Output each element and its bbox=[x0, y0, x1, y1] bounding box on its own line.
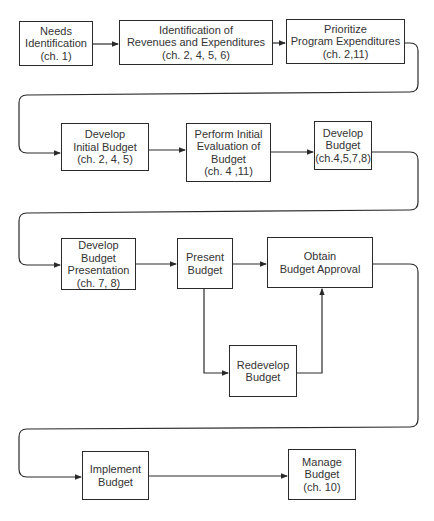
node-label-line: Budget bbox=[305, 468, 340, 481]
node-label-line: Evaluation of bbox=[197, 140, 261, 153]
node-label-line: Budget bbox=[326, 139, 361, 152]
node-label-line: Redevelop bbox=[237, 359, 290, 372]
node-label-line: (ch. 4 ,11) bbox=[204, 165, 253, 178]
node-label-line: Manage bbox=[302, 456, 342, 469]
node-label-line: (ch.4,5,7,8) bbox=[315, 152, 371, 165]
node-label-line: Budget bbox=[98, 476, 133, 489]
edge-present-redevelop bbox=[204, 289, 228, 373]
node-label-line: Present bbox=[186, 251, 224, 264]
node-label-line: Identification bbox=[25, 37, 87, 50]
node-label-line: Budget bbox=[81, 252, 116, 265]
node-label-line: Identification of bbox=[159, 24, 233, 37]
node-present: PresentBudget bbox=[177, 238, 233, 289]
node-label-line: (ch. 1) bbox=[40, 50, 71, 63]
node-redevelop: RedevelopBudget bbox=[229, 345, 297, 397]
node-label-line: Prioritize bbox=[324, 23, 367, 36]
node-label-line: (ch. 2, 4, 5) bbox=[77, 153, 133, 166]
node-label-line: (ch. 2, 4, 5, 6) bbox=[162, 49, 230, 62]
node-needs: NeedsIdentification(ch. 1) bbox=[19, 21, 93, 66]
node-label-line: Program Expenditures bbox=[291, 35, 400, 48]
node-label-line: (ch. 2,11) bbox=[323, 48, 369, 61]
node-label-line: Initial Budget bbox=[73, 141, 137, 154]
node-manage: ManageBudget(ch. 10) bbox=[288, 449, 356, 500]
node-implement: ImplementBudget bbox=[82, 451, 149, 500]
node-prioritize: PrioritizeProgram Expenditures(ch. 2,11) bbox=[286, 19, 405, 64]
node-label-line: Develop bbox=[323, 127, 363, 140]
node-label-line: Needs bbox=[40, 25, 72, 38]
node-label-line: Revenues and Expenditures bbox=[127, 36, 265, 49]
node-label-line: Develop bbox=[78, 239, 118, 252]
node-label-line: (ch. 10) bbox=[303, 481, 340, 494]
node-develop-presentation: DevelopBudgetPresentation(ch. 7, 8) bbox=[61, 238, 136, 290]
node-label-line: Obtain bbox=[304, 250, 336, 263]
node-develop-budget: DevelopBudget(ch.4,5,7,8) bbox=[314, 121, 372, 170]
node-perform-evaluation: Perform InitialEvaluation ofBudget(ch. 4… bbox=[186, 123, 271, 182]
node-label-line: (ch. 7, 8) bbox=[77, 277, 120, 290]
node-identification: Identification ofRevenues and Expenditur… bbox=[119, 20, 273, 65]
node-obtain-approval: ObtainBudget Approval bbox=[267, 237, 373, 288]
node-label-line: Budget bbox=[188, 264, 223, 277]
node-label-line: Develop bbox=[85, 128, 125, 141]
edge-redevelop-obtain bbox=[297, 289, 322, 373]
node-label-line: Budget Approval bbox=[280, 263, 361, 276]
edge-obtain-implement bbox=[19, 264, 418, 477]
node-label-line: Budget bbox=[211, 153, 246, 166]
node-label-line: Perform Initial bbox=[195, 128, 263, 141]
node-label-line: Presentation bbox=[68, 264, 130, 277]
node-develop-initial: DevelopInitial Budget(ch. 2, 4, 5) bbox=[61, 123, 149, 171]
node-label-line: Budget bbox=[246, 371, 281, 384]
node-label-line: Implement bbox=[90, 463, 141, 476]
